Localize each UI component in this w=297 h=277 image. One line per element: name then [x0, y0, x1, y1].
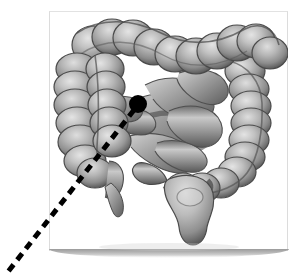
card-shadow-fade: [49, 252, 289, 260]
colon-illustration: [49, 11, 288, 251]
figure-canvas: [0, 0, 297, 277]
location-marker-dot[interactable]: [129, 95, 147, 113]
rectum: [165, 175, 214, 245]
